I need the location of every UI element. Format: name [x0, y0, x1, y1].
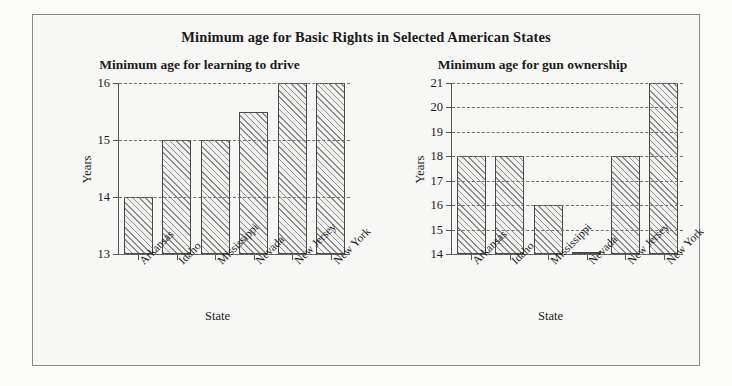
figure-main-title: Minimum age for Basic Rights in Selected… [33, 29, 699, 46]
charts-container: Minimum age for learning to drive Years … [33, 57, 699, 357]
bar-slot [119, 83, 158, 254]
chart-title-right: Minimum age for gun ownership [366, 57, 699, 73]
y-axis-tick-label: 14 [98, 190, 111, 205]
y-axis-label-left: Years [79, 83, 97, 255]
plot-area-left: Years 13141516 ArkansasIdahoMississippiN… [85, 83, 350, 255]
bar-slot [529, 83, 568, 254]
y-axis-tick-label: 13 [98, 247, 111, 262]
gridline [452, 205, 683, 206]
y-axis-tick [446, 83, 452, 84]
y-axis-tick [446, 230, 452, 231]
y-axis-tick-label: 15 [98, 133, 111, 148]
x-axis-label-left: State [85, 309, 350, 324]
y-axis-tick [446, 132, 452, 133]
chart-learning-to-drive: Minimum age for learning to drive Years … [33, 57, 366, 357]
y-axis-tick [113, 197, 119, 198]
gridline [452, 181, 683, 182]
chart-title-left: Minimum age for learning to drive [33, 57, 366, 73]
bar-slot [452, 83, 491, 254]
gridline [119, 83, 350, 84]
figure-page: Minimum age for Basic Rights in Selected… [0, 0, 732, 386]
y-axis-tick-label: 17 [431, 173, 444, 188]
y-axis-tick-label: 14 [431, 247, 444, 262]
y-axis-tick [446, 107, 452, 108]
gridline [119, 140, 350, 141]
y-axis-tick-label: 19 [431, 124, 444, 139]
bar-slot [491, 83, 530, 254]
gridline [452, 107, 683, 108]
y-axis-tick [113, 140, 119, 141]
y-axis-tick-label: 18 [431, 149, 444, 164]
bar-slot [606, 83, 645, 254]
gridline [452, 230, 683, 231]
y-axis-label-right: Years [412, 83, 430, 255]
y-axis-tick [113, 83, 119, 84]
y-axis-tick [446, 156, 452, 157]
plot-canvas-right: 1415161718192021 [451, 83, 683, 255]
bar-slot [273, 83, 312, 254]
y-axis-tick-label: 21 [431, 76, 444, 91]
chart-gun-ownership: Minimum age for gun ownership Years 1415… [366, 57, 699, 357]
y-axis-tick-label: 16 [98, 76, 111, 91]
bar-slot [196, 83, 235, 254]
y-axis-tick [446, 181, 452, 182]
bar-group-right [452, 83, 683, 254]
y-axis-tick-label: 16 [431, 198, 444, 213]
bar-slot [158, 83, 197, 254]
y-axis-tick-label: 15 [431, 222, 444, 237]
y-axis-tick-label: 20 [431, 100, 444, 115]
gridline [452, 83, 683, 84]
plot-area-right: Years 1415161718192021 ArkansasIdahoMiss… [418, 83, 683, 255]
plot-canvas-left: 13141516 [118, 83, 350, 255]
y-axis-tick [446, 205, 452, 206]
gridline [452, 156, 683, 157]
figure-panel: Minimum age for Basic Rights in Selected… [32, 14, 700, 366]
bar[interactable] [278, 83, 307, 254]
gridline [452, 132, 683, 133]
x-axis-label-right: State [418, 309, 683, 324]
bar-group-left [119, 83, 350, 254]
gridline [119, 197, 350, 198]
